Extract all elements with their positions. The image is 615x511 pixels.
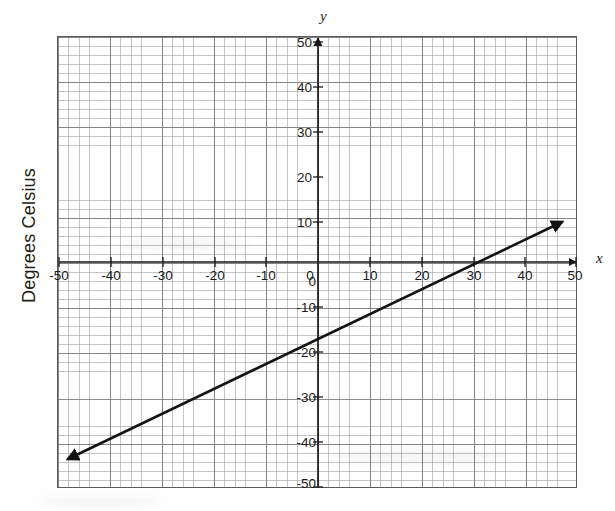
x-tick-label: 10 [362, 268, 377, 283]
x-tick-label: -40 [101, 268, 121, 283]
y-tick-label: -40 [296, 435, 316, 450]
y-tick-label: 20 [297, 170, 312, 185]
y-axis-caption-area: Degrees Celsius [0, 0, 52, 511]
x-tick-label: -20 [205, 268, 225, 283]
x-tick-label: -50 [49, 268, 69, 283]
chart-page: Degrees Celsius [0, 0, 615, 511]
y-tick-label: 40 [297, 80, 312, 95]
y-tick-label: -50 [296, 476, 316, 491]
x-tick-label: 20 [414, 268, 429, 283]
y-tick-label: 50 [297, 35, 312, 50]
scan-artifact [330, 448, 510, 464]
y-axis-caption: Degrees Celsius [19, 151, 40, 321]
y-tick-label-origin: 0 [308, 274, 316, 289]
x-tick-label: 30 [466, 268, 481, 283]
scan-artifact [120, 238, 250, 252]
x-tick-label: -10 [256, 268, 276, 283]
y-tick-label: -10 [296, 300, 316, 315]
y-axis-name: y [320, 8, 327, 25]
y-tick-label: -20 [296, 345, 316, 360]
scan-artifact [40, 496, 160, 506]
x-tick-label: 50 [567, 268, 582, 283]
x-tick-label: 40 [517, 268, 532, 283]
y-tick-label: -30 [296, 390, 316, 405]
x-axis-name: x [596, 250, 603, 267]
x-tick-label: -30 [153, 268, 173, 283]
y-tick-label: 10 [297, 215, 312, 230]
plot-grid-area [57, 36, 577, 488]
y-tick-label: 30 [297, 125, 312, 140]
